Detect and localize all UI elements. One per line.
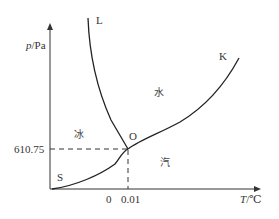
x-axis-unit: /℃ <box>246 193 261 205</box>
temp-tick-triple: 0.01 <box>121 194 140 205</box>
pressure-tick-label: 610.75 <box>14 144 44 155</box>
x-axis-label: T/℃ <box>240 194 262 205</box>
y-axis-label: p/Pa <box>26 40 46 51</box>
region-label-vapor: 汽 <box>160 157 170 168</box>
region-label-liquid: 水 <box>154 87 164 98</box>
curve-OK <box>128 58 239 149</box>
curve-OS <box>52 149 128 189</box>
y-axis-unit: /Pa <box>32 39 46 51</box>
curve-label-K: K <box>219 51 227 62</box>
triple-point-label: O <box>129 131 137 142</box>
curve-OL <box>88 18 128 149</box>
temp-tick-zero: 0 <box>106 194 112 205</box>
curve-label-S: S <box>57 172 63 183</box>
phase-diagram: p/Pa T/℃ L K S O 610.75 0 0.01 水 冰 汽 <box>0 0 279 219</box>
curve-label-L: L <box>96 15 103 26</box>
region-label-solid: 冰 <box>74 129 84 140</box>
diagram-graphics <box>0 0 279 219</box>
